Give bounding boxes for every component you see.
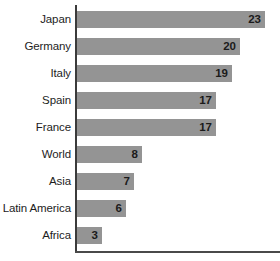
bar-value-label: 8	[132, 146, 138, 163]
chart-row: Germany 20	[0, 38, 280, 55]
category-label: Latin America	[0, 200, 71, 217]
bar-value-label: 19	[215, 65, 228, 82]
bar-value-label: 17	[199, 92, 212, 109]
bar[interactable]	[77, 65, 232, 82]
category-label: Spain	[0, 92, 71, 109]
bar-container: 17	[77, 92, 216, 109]
bar-value-label: 23	[248, 11, 261, 28]
x-axis-line	[75, 251, 280, 253]
category-label: Asia	[0, 173, 71, 190]
bar-value-label: 20	[223, 38, 236, 55]
bar-container: 3	[77, 227, 102, 244]
bar[interactable]	[77, 227, 102, 244]
chart-row: Africa 3	[0, 227, 280, 244]
bar-container: 8	[77, 146, 142, 163]
bar-container: 17	[77, 119, 216, 136]
bar-value-label: 3	[92, 227, 98, 244]
bar-container: 6	[77, 200, 126, 217]
chart-row: Spain 17	[0, 92, 280, 109]
chart-row: France 17	[0, 119, 280, 136]
category-label: World	[0, 146, 71, 163]
bar-container: 7	[77, 173, 134, 190]
bar[interactable]	[77, 92, 216, 109]
chart-row: Latin America 6	[0, 200, 280, 217]
category-label: Germany	[0, 38, 71, 55]
category-label: France	[0, 119, 71, 136]
bar-container: 19	[77, 65, 232, 82]
category-label: Japan	[0, 11, 71, 28]
bar-container: 20	[77, 38, 240, 55]
bar-container: 23	[77, 11, 265, 28]
chart-row: Italy 19	[0, 65, 280, 82]
category-label: Italy	[0, 65, 71, 82]
chart-row: World 8	[0, 146, 280, 163]
bar-value-label: 17	[199, 119, 212, 136]
bar[interactable]	[77, 11, 265, 28]
bar[interactable]	[77, 119, 216, 136]
y-axis-line	[75, 5, 77, 253]
chart-row: Asia 7	[0, 173, 280, 190]
bar-value-label: 7	[124, 173, 130, 190]
bar-value-label: 6	[116, 200, 122, 217]
bar-chart: Japan 23 Germany 20 Italy 19 Spain	[0, 0, 280, 261]
category-label: Africa	[0, 227, 71, 244]
bar[interactable]	[77, 38, 240, 55]
chart-row: Japan 23	[0, 11, 280, 28]
